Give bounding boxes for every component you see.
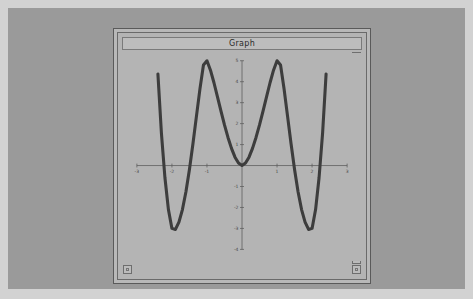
screen: Graph -3-2-1123-4-3-2-112345 bbox=[0, 0, 473, 299]
graph-plot: -3-2-1123-4-3-2-112345 bbox=[123, 53, 361, 261]
y-tick-label: 4 bbox=[236, 79, 239, 84]
window-inner-frame: Graph -3-2-1123-4-3-2-112345 bbox=[117, 32, 367, 280]
resize-handle-bottom-right-icon[interactable] bbox=[352, 265, 361, 274]
x-tick-label: -3 bbox=[135, 169, 140, 174]
x-tick-label: 2 bbox=[311, 169, 314, 174]
x-tick-label: -2 bbox=[170, 169, 175, 174]
x-tick-label: -1 bbox=[205, 169, 210, 174]
y-tick-label: -1 bbox=[234, 184, 239, 189]
y-tick-label: -2 bbox=[234, 205, 239, 210]
axes-group bbox=[137, 61, 347, 250]
resize-handle-bottom-left-icon[interactable] bbox=[123, 265, 132, 274]
y-tick-label: -3 bbox=[234, 226, 239, 231]
y-tick-label: -4 bbox=[234, 247, 239, 252]
desktop-background: Graph -3-2-1123-4-3-2-112345 bbox=[8, 8, 465, 289]
x-tick-label: 3 bbox=[346, 169, 349, 174]
window-title: Graph bbox=[229, 40, 255, 48]
plot-area[interactable]: -3-2-1123-4-3-2-112345 bbox=[123, 53, 361, 261]
x-tick-label: 1 bbox=[276, 169, 279, 174]
y-tick-label: 3 bbox=[236, 100, 239, 105]
graph-window[interactable]: Graph -3-2-1123-4-3-2-112345 bbox=[113, 28, 371, 284]
y-tick-label: 5 bbox=[236, 58, 239, 63]
y-tick-label: 2 bbox=[236, 121, 239, 126]
y-tick-label: 1 bbox=[236, 142, 239, 147]
window-titlebar[interactable]: Graph bbox=[122, 37, 362, 50]
